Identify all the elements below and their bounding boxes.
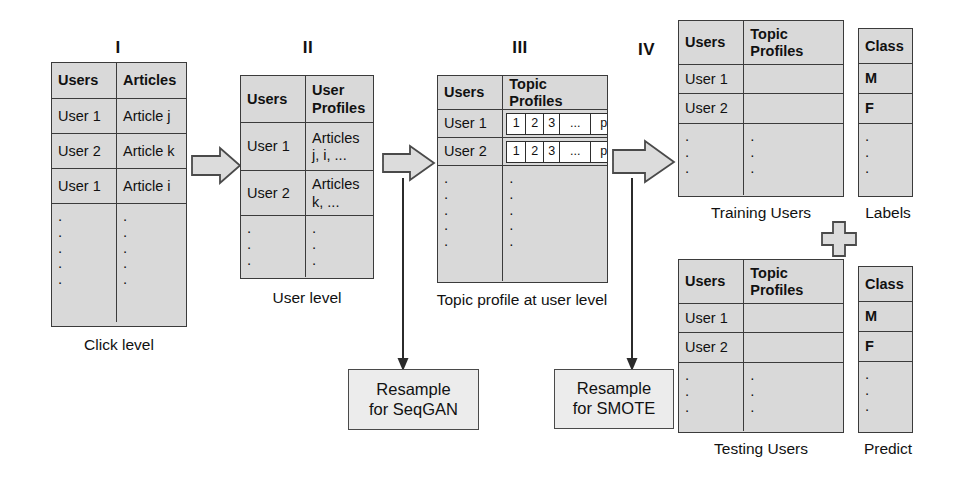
cell-user: User 1 xyxy=(679,65,744,93)
caption-user-level: User level xyxy=(227,288,387,307)
stage-numeral-1: I xyxy=(98,38,138,58)
cell-user: User 1 xyxy=(52,169,117,203)
table-row: M xyxy=(859,64,912,94)
cell-ellipsis: . . . xyxy=(679,124,744,195)
dot: . xyxy=(750,128,838,144)
resample-seqgan-box[interactable]: Resample for SeqGAN xyxy=(348,369,479,430)
table-ellipsis-row: . . . xyxy=(859,124,912,195)
resample-smote-line2: for SMOTE xyxy=(573,399,656,419)
caption-labels: Labels xyxy=(843,203,933,222)
dot: . xyxy=(750,399,838,415)
cell-ellipsis: . . . xyxy=(744,363,843,431)
topic-cell: 3 xyxy=(544,114,560,134)
cell-article: Article k xyxy=(117,134,186,168)
dot: . xyxy=(750,383,838,399)
dot: . xyxy=(444,202,497,218)
cell-topic-profile: 1 2 3 ... p xyxy=(503,138,607,165)
dot: . xyxy=(865,382,907,398)
cell-ellipsis: . . . xyxy=(859,362,912,431)
dot: . xyxy=(509,186,602,202)
table-training-labels: Class M F . . . xyxy=(858,28,913,197)
table-row: User 1 1 2 3 ... p xyxy=(438,110,607,138)
stage-numeral-2: II xyxy=(288,38,328,58)
dot: . xyxy=(750,144,838,160)
table-training-users: Users Topic Profiles User 1 User 2 . . .… xyxy=(678,20,844,197)
table-testing-labels: Class M F . . . xyxy=(858,266,913,433)
cell-topic-profile xyxy=(744,333,843,362)
cell-ellipsis: . . . xyxy=(744,124,843,195)
table-ellipsis-row: . . . xyxy=(859,362,912,431)
resample-smote-label: Resample for SMOTE xyxy=(573,379,656,419)
topic-cell-ellipsis: ... xyxy=(560,142,591,162)
cell-user: User 2 xyxy=(241,171,306,215)
header-topic-profiles: Topic Profiles xyxy=(744,260,843,303)
cell-user-profile: Articles j, i, ... xyxy=(306,123,373,170)
dot: . xyxy=(865,128,907,144)
caption-topic-profile: Topic profile at user level xyxy=(424,290,620,309)
topic-cell: 2 xyxy=(526,114,544,134)
header-user-profiles: User Profiles xyxy=(306,76,373,122)
table-testing-users: Users Topic Profiles User 1 User 2 . . .… xyxy=(678,259,844,433)
caption-training-users: Training Users xyxy=(676,203,846,222)
table-row: User 1 Articles j, i, ... xyxy=(241,123,373,171)
header-users: Users xyxy=(438,76,503,109)
table-ellipsis-row: . . . . . . xyxy=(679,363,843,431)
cell-user-profile: Articles k, ... xyxy=(306,171,373,215)
table-user-level: Users User Profiles User 1 Articles j, i… xyxy=(240,75,374,279)
dot: . xyxy=(509,202,602,218)
dot: . xyxy=(444,186,497,202)
topic-profile-strip: 1 2 3 ... p xyxy=(506,113,607,135)
cell-class-value: M xyxy=(859,302,912,331)
cell-user: User 1 xyxy=(679,304,744,332)
dot: . xyxy=(58,255,111,271)
table-topic-profile: Users Topic Profiles User 1 1 2 3 ... p … xyxy=(437,75,608,283)
table-row: User 1 xyxy=(679,65,843,94)
cell-topic-profile xyxy=(744,94,843,123)
dot: . xyxy=(444,233,497,249)
cell-class-value: F xyxy=(859,94,912,123)
table-row: User 2 xyxy=(679,94,843,124)
dot: . xyxy=(247,220,300,236)
header-topic-profiles: Topic Profiles xyxy=(503,76,607,109)
dot: . xyxy=(58,208,111,224)
cell-topic-profile xyxy=(744,304,843,332)
cell-ellipsis: . . . . . xyxy=(438,166,503,281)
header-topic-profiles: Topic Profiles xyxy=(744,21,843,64)
topic-cell: p xyxy=(591,114,607,134)
table-click-level: Users Articles User 1 Article j User 2 A… xyxy=(51,62,187,327)
header-users: Users xyxy=(241,76,306,122)
table-row: User 1 Article j xyxy=(52,99,186,134)
cell-user: User 2 xyxy=(679,94,744,123)
pipeline-diagram: I II III IV Users Articles User 1 Articl… xyxy=(0,0,967,485)
resample-smote-box[interactable]: Resample for SMOTE xyxy=(554,369,674,429)
cell-class-value: F xyxy=(859,332,912,361)
table-ellipsis-row: . . . . . . . . . . xyxy=(52,204,186,322)
table-header-row: Users Topic Profiles xyxy=(679,21,843,65)
dot: . xyxy=(865,366,907,382)
caption-testing-users: Testing Users xyxy=(676,439,846,458)
block-arrow-1 xyxy=(192,148,240,183)
dot: . xyxy=(444,170,497,186)
table-row: User 1 xyxy=(679,304,843,333)
table-ellipsis-row: . . . . . . xyxy=(679,124,843,195)
cell-user: User 2 xyxy=(438,138,503,165)
resample-smote-line1: Resample xyxy=(573,379,656,399)
block-arrow-3 xyxy=(613,141,674,182)
dot: . xyxy=(750,160,838,176)
dot: . xyxy=(123,208,181,224)
table-row: User 2 xyxy=(679,333,843,363)
cell-topic-profile: 1 2 3 ... p xyxy=(503,110,607,137)
resample-seqgan-label: Resample for SeqGAN xyxy=(369,380,458,420)
cell-ellipsis: . . . xyxy=(306,216,373,277)
table-header-row: Users Topic Profiles xyxy=(438,76,607,110)
cell-article: Article i xyxy=(117,169,186,203)
topic-profile-strip: 1 2 3 ... p xyxy=(506,141,607,163)
table-ellipsis-row: . . . . . . xyxy=(241,216,373,277)
topic-cell: p xyxy=(591,142,607,162)
dot: . xyxy=(312,220,368,236)
cell-ellipsis: . . . xyxy=(679,363,744,431)
topic-cell: 2 xyxy=(526,142,544,162)
table-header-row: Users Articles xyxy=(52,63,186,99)
dot: . xyxy=(123,271,181,287)
dot: . xyxy=(247,252,300,268)
